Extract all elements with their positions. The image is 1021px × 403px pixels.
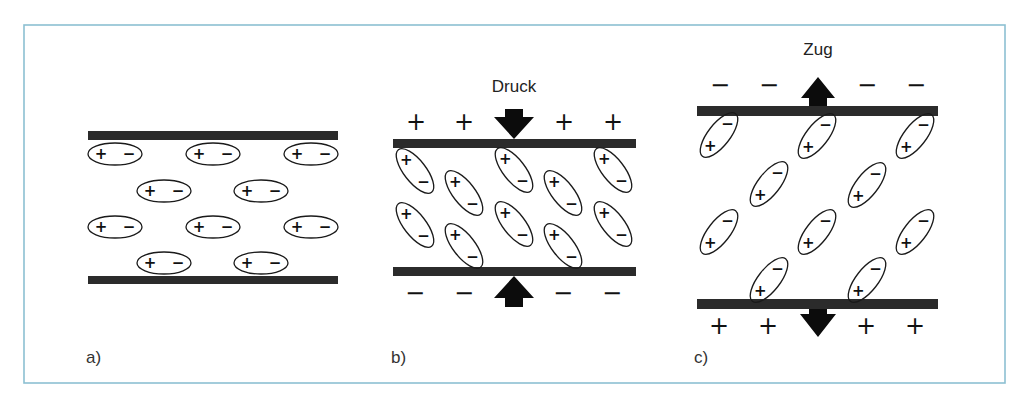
dipole-molecule: +− (890, 108, 941, 164)
negative-charge-sign: − (869, 260, 882, 278)
negative-charge-sign: − (269, 254, 282, 272)
dipole-molecule: +− (588, 196, 639, 252)
bottom-electrode-plate (393, 267, 636, 276)
negative-charge-sign: − (172, 182, 185, 200)
top-surface-charge-positive: + (454, 108, 474, 136)
force-arrow-down-icon (800, 309, 836, 337)
positive-charge-sign: + (900, 234, 913, 252)
dipole-molecule: +− (390, 143, 441, 199)
negative-charge-sign: − (466, 195, 479, 213)
bottom-surface-charge-positive: + (758, 312, 778, 340)
positive-charge-sign: + (499, 204, 512, 222)
negative-charge-sign: − (917, 212, 930, 230)
bottom-surface-charge-positive: + (709, 312, 729, 340)
panel-c-tension: +−+−+−+−+−+−+−+−+−+−−−−−++++Zugc) (694, 40, 941, 367)
negative-charge-sign: − (771, 260, 784, 278)
dipole-molecule: +− (538, 165, 589, 221)
dipole-molecule: +− (694, 204, 745, 260)
dipole-molecule: +− (890, 204, 941, 260)
positive-charge-sign: + (449, 173, 462, 191)
dipole-molecule: +− (792, 204, 843, 260)
dipole-ellipse (890, 108, 941, 164)
dipole-molecule: +− (137, 180, 191, 202)
dipole-ellipse (538, 165, 589, 221)
dipole-molecule: +− (284, 143, 338, 165)
negative-charge-sign: − (221, 218, 234, 236)
negative-charge-sign: − (721, 212, 734, 230)
dipole-ellipse (390, 197, 441, 253)
bottom-surface-charge-negative: − (405, 279, 425, 307)
negative-charge-sign: − (615, 226, 628, 244)
dipole-molecule: +− (88, 216, 142, 238)
force-label: Zug (803, 40, 832, 59)
positive-charge-sign: + (144, 254, 157, 272)
negative-charge-sign: − (615, 172, 628, 190)
positive-charge-sign: + (900, 138, 913, 156)
negative-charge-sign: − (221, 145, 234, 163)
negative-charge-sign: − (269, 182, 282, 200)
negative-charge-sign: − (819, 212, 832, 230)
dipole-ellipse (792, 204, 843, 260)
force-label: Druck (492, 77, 537, 96)
positive-charge-sign: + (548, 226, 561, 244)
positive-charge-sign: + (499, 150, 512, 168)
top-surface-charge-positive: + (406, 108, 426, 136)
dipole-ellipse (390, 143, 441, 199)
panel-label: a) (86, 348, 101, 367)
negative-charge-sign: − (819, 116, 832, 134)
positive-charge-sign: + (241, 254, 254, 272)
positive-charge-sign: + (852, 282, 865, 300)
dipole-molecule: +− (588, 142, 639, 198)
positive-charge-sign: + (291, 145, 304, 163)
bottom-surface-charge-negative: − (602, 279, 622, 307)
top-surface-charge-positive: + (603, 108, 623, 136)
dipole-molecule: +− (538, 218, 589, 274)
dipole-molecule: +− (744, 156, 795, 212)
dipole-molecule: +− (284, 216, 338, 238)
force-arrow-down-icon (494, 109, 534, 139)
dipole-ellipse (744, 156, 795, 212)
positive-charge-sign: + (400, 151, 413, 169)
top-surface-charge-negative: − (857, 71, 877, 99)
dipole-ellipse (439, 218, 490, 274)
bottom-surface-charge-positive: + (856, 312, 876, 340)
positive-charge-sign: + (400, 205, 413, 223)
dipole-molecule: +− (390, 197, 441, 253)
positive-charge-sign: + (193, 145, 206, 163)
negative-charge-sign: − (172, 254, 185, 272)
bottom-surface-charge-positive: + (905, 312, 925, 340)
dipole-ellipse (890, 204, 941, 260)
dipole-ellipse (538, 218, 589, 274)
dipole-molecule: +− (439, 218, 490, 274)
bottom-surface-charge-negative: − (553, 279, 573, 307)
bottom-electrode-plate (697, 299, 938, 309)
dipole-molecule: +− (439, 165, 490, 221)
dipole-molecule: +− (792, 108, 843, 164)
positive-charge-sign: + (95, 145, 108, 163)
positive-charge-sign: + (193, 218, 206, 236)
top-surface-charge-negative: − (710, 71, 730, 99)
negative-charge-sign: − (516, 226, 529, 244)
dipole-molecule: +− (489, 196, 540, 252)
top-surface-charge-negative: − (906, 71, 926, 99)
positive-charge-sign: + (802, 234, 815, 252)
negative-charge-sign: − (123, 218, 136, 236)
negative-charge-sign: − (771, 164, 784, 182)
force-arrow-up-icon (494, 276, 534, 307)
positive-charge-sign: + (291, 218, 304, 236)
bottom-electrode-plate (88, 276, 338, 284)
top-electrode-plate (88, 131, 338, 140)
force-arrow-up-icon (801, 77, 835, 106)
bottom-surface-charge-negative: − (454, 279, 474, 307)
positive-charge-sign: + (598, 204, 611, 222)
negative-charge-sign: − (319, 218, 332, 236)
dipole-molecule: +− (186, 216, 240, 238)
positive-charge-sign: + (802, 138, 815, 156)
dipole-molecule: +− (186, 143, 240, 165)
negative-charge-sign: − (123, 145, 136, 163)
positive-charge-sign: + (598, 150, 611, 168)
panel-label: b) (391, 348, 406, 367)
positive-charge-sign: + (144, 182, 157, 200)
panel-a-unstressed: +−+−+−+−+−+−+−+−+−+−a) (86, 131, 338, 367)
negative-charge-sign: − (565, 248, 578, 266)
